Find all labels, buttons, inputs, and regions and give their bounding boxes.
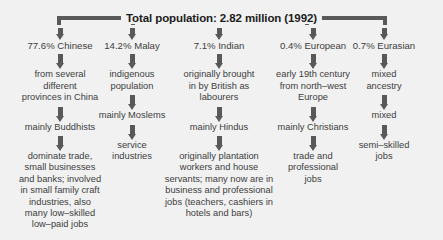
arrow-head — [56, 116, 64, 122]
population-flow-diagram: Total population: 2.82 million (1992) 77… — [0, 0, 443, 240]
title-bracket: Total population: 2.82 million (1992) — [0, 9, 443, 29]
arrow-head — [128, 134, 136, 140]
arrow-malay-1 — [128, 95, 137, 110]
arrow-head — [215, 145, 223, 151]
arrow-head — [309, 116, 317, 122]
arrow-european-1 — [309, 107, 318, 122]
arrow-shaft — [382, 54, 387, 63]
arrow-head — [380, 104, 388, 110]
eurasian-node-2: semi–skilled jobs — [339, 140, 429, 163]
arrow-shaft — [311, 136, 316, 145]
arrow-shaft — [130, 95, 135, 104]
arrow-eurasian-1 — [380, 95, 389, 110]
arrow-chinese-1 — [56, 107, 65, 122]
arrow-head — [215, 63, 223, 69]
arrow-chinese-0 — [56, 54, 65, 69]
arrow-shaft — [382, 95, 387, 104]
eurasian-header: 0.7% Eurasian — [339, 40, 429, 51]
arrow-european-2 — [309, 136, 318, 151]
arrow-eurasian-0 — [380, 54, 389, 69]
arrow-head — [309, 63, 317, 69]
arrow-to-european-header — [309, 28, 318, 40]
diagram-title-text: Total population: 2.82 million (1992) — [121, 12, 322, 24]
arrow-malay-2 — [128, 125, 137, 140]
arrow-eurasian-2 — [380, 125, 389, 140]
arrow-to-eurasian-header — [380, 28, 389, 40]
arrow-head — [215, 34, 223, 40]
arrow-to-chinese-header — [56, 28, 65, 40]
arrow-head — [56, 34, 64, 40]
arrow-head — [56, 145, 64, 151]
eurasian-node-1: mixed — [339, 110, 429, 121]
diagram-title: Total population: 2.82 million (1992) — [0, 9, 443, 28]
arrow-head — [309, 34, 317, 40]
arrow-shaft — [217, 136, 222, 145]
arrow-to-malay-header — [128, 28, 137, 40]
arrow-shaft — [217, 107, 222, 116]
arrow-head — [56, 63, 64, 69]
arrow-head — [128, 63, 136, 69]
arrow-indian-1 — [215, 107, 224, 122]
arrow-shaft — [217, 54, 222, 63]
arrow-head — [309, 145, 317, 151]
arrow-head — [380, 63, 388, 69]
arrow-shaft — [311, 54, 316, 63]
arrow-head — [128, 34, 136, 40]
arrow-shaft — [58, 54, 63, 63]
arrow-indian-2 — [215, 136, 224, 151]
column-eurasian: 0.7% Eurasianmixed ancestrymixedsemi–ski… — [339, 28, 429, 162]
arrow-shaft — [130, 125, 135, 134]
arrow-european-0 — [309, 54, 318, 69]
arrow-shaft — [58, 107, 63, 116]
arrow-malay-0 — [128, 54, 137, 69]
arrow-chinese-2 — [56, 136, 65, 151]
arrow-head — [128, 104, 136, 110]
arrow-shaft — [382, 125, 387, 134]
arrow-head — [215, 116, 223, 122]
arrow-indian-0 — [215, 54, 224, 69]
arrow-to-indian-header — [215, 28, 224, 40]
arrow-shaft — [130, 54, 135, 63]
arrow-head — [380, 34, 388, 40]
arrow-shaft — [58, 136, 63, 145]
eurasian-node-0: mixed ancestry — [339, 69, 429, 92]
arrow-head — [380, 134, 388, 140]
chinese-node-2: dominate trade, small businesses and ban… — [1, 151, 119, 231]
arrow-shaft — [311, 107, 316, 116]
